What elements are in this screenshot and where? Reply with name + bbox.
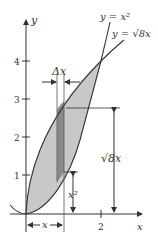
x2-height-label: x²	[68, 189, 78, 200]
delta-x-label: Δx	[51, 65, 67, 78]
base-width-label: x	[42, 219, 48, 230]
y-tick-label-1: 1	[14, 171, 20, 181]
parabola-label: y = x²	[99, 11, 130, 22]
y-tick-label-4: 4	[14, 57, 20, 67]
y-tick-label-2: 2	[14, 133, 20, 143]
delta-x-strip	[57, 101, 64, 182]
sqrt-height-label: √8x	[101, 152, 122, 165]
x-tick-label-2: 2	[98, 222, 104, 232]
y-tick-label-3: 3	[14, 95, 20, 105]
y-axis-label: y	[30, 14, 38, 27]
root-curve-label: y = √8x	[111, 28, 151, 39]
diagram-canvas: y x 4 3 2 1 2 y = x² y = √8x Δx √8x x² x	[0, 0, 158, 246]
x-axis-label: x	[137, 221, 143, 232]
